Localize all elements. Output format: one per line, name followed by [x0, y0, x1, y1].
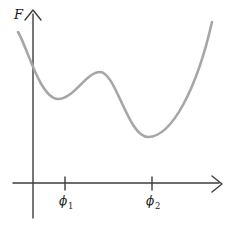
x-tick-label-phi1-subscript: 1: [68, 201, 73, 211]
x-axis-arrowhead-icon: [212, 176, 222, 192]
x-tick-label-phi2: ϕ: [146, 194, 154, 208]
free-energy-curve: [18, 22, 212, 137]
plot-svg: F ϕ 1 ϕ 2: [0, 0, 233, 231]
y-axis-label: F: [13, 7, 24, 22]
double-well-free-energy-figure: F ϕ 1 ϕ 2: [0, 0, 233, 231]
x-tick-label-phi1: ϕ: [59, 194, 67, 208]
x-tick-label-phi2-subscript: 2: [155, 201, 160, 211]
